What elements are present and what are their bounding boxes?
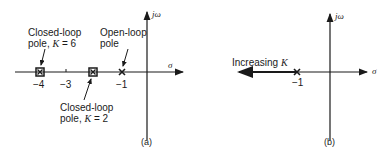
closed-loop-pole-k2-label: Closed-loop pole, K = 2 <box>60 102 113 124</box>
panel-a-sigma-label: σ <box>168 60 172 70</box>
k-symbol: K <box>281 57 288 68</box>
label-value: = 6 <box>59 38 76 49</box>
label-line: pole, K = 6 <box>28 38 81 49</box>
tick-minus-4: −4 <box>33 79 44 90</box>
label-line: pole <box>100 38 147 49</box>
panel-b-jw-label: jω <box>335 11 344 21</box>
root-locus-figure <box>0 0 387 155</box>
label-line: Closed-loop <box>60 102 113 113</box>
label-text: pole, <box>60 113 84 124</box>
panel-b-caption: (b) <box>324 137 335 147</box>
panel-b-axes <box>297 14 367 140</box>
label-line: Closed-loop <box>28 27 81 38</box>
open-loop-pole-label: Open-loop pole <box>100 27 147 49</box>
closed-loop-pole-k6-label: Closed-loop pole, K = 6 <box>28 27 81 49</box>
panel-a-pointer-arrows <box>41 49 128 100</box>
panel-b-sigma-label: σ <box>372 66 376 76</box>
label-line: pole, K = 2 <box>60 113 113 124</box>
panel-b-tick-minus-1: −1 <box>292 77 303 88</box>
label-text: Increasing <box>232 57 281 68</box>
label-text: pole, <box>28 38 52 49</box>
label-value: = 2 <box>91 113 108 124</box>
tick-minus-1: −1 <box>116 79 127 90</box>
panel-a-jw-label: jω <box>152 9 161 19</box>
increasing-k-label: Increasing K <box>232 57 288 68</box>
panel-a-caption: (a) <box>141 137 152 147</box>
label-line: Open-loop <box>100 27 147 38</box>
tick-minus-3: −3 <box>60 79 71 90</box>
